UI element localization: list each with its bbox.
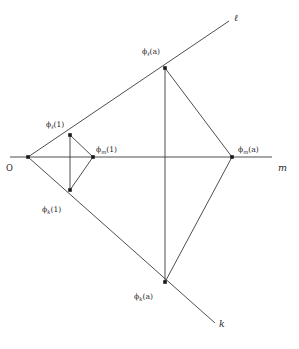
label-group: O ϕℓ(1) ϕm(1) ϕk(1) ϕℓ(a) ϕm(a) ϕk(a) ℓ … [6,12,287,329]
node-phi-k-1 [68,188,72,192]
ray-k [28,157,215,323]
label-line-k: k [219,318,225,329]
segment-outer-ell-m [165,68,232,157]
node-phi-ell-a [163,66,167,70]
segment-group [70,68,232,282]
label-phi-ell-a: ϕℓ(a) [142,47,160,57]
node-phi-ell-1 [68,133,72,137]
node-phi-k-a [163,280,167,284]
label-phi-m-a: ϕm(a) [238,145,259,155]
label-origin: O [6,163,13,173]
geometry-figure: O ϕℓ(1) ϕm(1) ϕk(1) ϕℓ(a) ϕm(a) ϕk(a) ℓ … [0,0,299,349]
node-group [26,66,234,284]
node-origin [26,155,30,159]
node-phi-m-1 [91,155,95,159]
label-line-ell: ℓ [234,12,238,23]
figure-canvas: O ϕℓ(1) ϕm(1) ϕk(1) ϕℓ(a) ϕm(a) ϕk(a) ℓ … [0,0,299,349]
node-phi-m-a [230,155,234,159]
ray-ell [28,21,229,157]
label-line-m: m [278,162,287,173]
label-phi-ell-1: ϕℓ(1) [46,120,64,130]
label-phi-k-a: ϕk(a) [134,292,153,302]
label-phi-k-1: ϕk(1) [42,205,61,215]
ray-group [10,21,272,323]
label-phi-m-1: ϕm(1) [96,145,117,155]
segment-inner-ell-m [70,135,93,157]
segment-inner-m-k [70,157,93,190]
segment-outer-m-k [165,157,232,282]
